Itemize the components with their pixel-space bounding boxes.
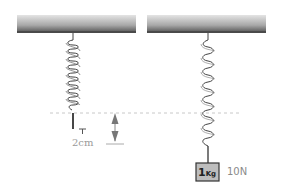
right-spring <box>201 33 215 146</box>
tick-marker <box>79 129 86 134</box>
right-ceiling <box>147 15 266 33</box>
left-spring <box>66 33 80 110</box>
spring-diagram <box>0 0 281 194</box>
extension-label: 2cm <box>72 137 93 148</box>
force-label: 10N <box>227 166 247 177</box>
weight-label: 1Kg <box>198 165 218 180</box>
left-ceiling <box>17 15 136 33</box>
extension-arrow <box>106 113 124 144</box>
